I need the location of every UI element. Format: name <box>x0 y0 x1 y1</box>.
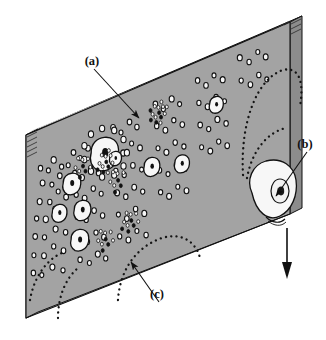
nucleation-dot <box>130 219 133 223</box>
nucleation-dot <box>135 212 138 216</box>
satellite-bubble <box>121 136 126 143</box>
nucleation-dot <box>112 239 115 243</box>
small-bubble <box>31 270 35 276</box>
nucleation-dot <box>105 160 108 164</box>
small-bubble <box>167 193 172 199</box>
small-bubble <box>156 146 160 151</box>
small-bubble <box>119 130 123 135</box>
small-bubble <box>118 234 122 239</box>
small-bubble <box>32 253 36 258</box>
small-bubble <box>182 144 186 149</box>
small-bubble <box>91 186 95 192</box>
small-bubble <box>131 163 136 169</box>
nucleation-dot <box>109 154 112 158</box>
nucleation-dot <box>159 121 162 125</box>
small-bubble <box>237 55 242 61</box>
satellite-bubble <box>100 125 105 132</box>
nucleation-dot <box>82 164 85 168</box>
small-bubble <box>197 100 201 105</box>
small-bubble <box>99 191 103 196</box>
small-bubble <box>124 194 128 200</box>
small-bubble <box>198 122 203 128</box>
small-bubble <box>42 235 46 240</box>
small-bubble <box>217 139 221 144</box>
small-bubble <box>66 163 70 168</box>
nucleation-dot <box>97 239 100 243</box>
small-bubble <box>180 122 185 128</box>
small-bubble <box>212 73 216 78</box>
nucleation-dot <box>84 169 87 173</box>
bubble-nucleus <box>58 210 61 215</box>
small-bubble <box>94 230 98 235</box>
nucleation-dot <box>160 100 163 104</box>
small-bubble <box>51 157 56 164</box>
small-bubble <box>42 253 47 259</box>
nucleation-dot <box>154 115 157 119</box>
nucleation-dot <box>132 224 135 228</box>
small-bubble <box>200 145 204 150</box>
small-bubble <box>43 216 48 223</box>
nucleate-boiling-plate-diagram: (a)(b)(c) <box>0 0 326 340</box>
small-bubble <box>126 237 131 243</box>
small-bubble <box>48 199 52 205</box>
small-bubble <box>35 216 39 221</box>
small-bubble <box>176 184 180 189</box>
small-bubble <box>142 210 147 216</box>
nucleation-dot <box>151 112 154 116</box>
small-bubble <box>133 206 137 212</box>
small-bubble <box>140 167 144 172</box>
nucleation-dot <box>122 171 125 175</box>
nucleation-dot <box>78 176 81 180</box>
bubble-nucleus <box>70 180 74 186</box>
label-c: (c) <box>150 287 164 301</box>
small-bubble <box>52 244 56 249</box>
nucleation-dot <box>78 169 81 173</box>
nucleation-dot <box>101 249 104 253</box>
small-bubble <box>46 168 50 173</box>
small-bubble <box>184 188 189 194</box>
nucleation-dot <box>81 158 84 162</box>
small-bubble <box>40 273 44 278</box>
nucleation-dot <box>74 166 77 170</box>
nucleation-dot <box>104 154 107 158</box>
label-a: (a) <box>85 54 100 68</box>
figure-container: (a)(b)(c) <box>0 0 326 340</box>
small-bubble <box>208 148 213 154</box>
nucleation-dot <box>114 190 117 194</box>
nucleation-dot <box>125 211 128 215</box>
small-bubble <box>78 257 82 263</box>
small-bubble <box>63 230 67 236</box>
nucleation-dot <box>96 168 99 172</box>
nucleation-dot <box>129 213 132 217</box>
small-bubble <box>195 78 199 84</box>
satellite-bubble <box>82 143 87 150</box>
small-bubble <box>169 96 174 102</box>
small-bubble <box>164 149 169 155</box>
small-bubble <box>37 199 42 205</box>
small-bubble <box>38 165 42 171</box>
nucleation-dot <box>113 184 116 188</box>
nucleation-dot <box>127 230 130 234</box>
nucleation-dot <box>98 162 101 166</box>
nucleation-dot <box>123 220 126 224</box>
small-bubble <box>50 264 55 270</box>
small-bubble <box>144 232 148 238</box>
nucleation-dot <box>157 106 160 110</box>
nucleation-dot <box>158 111 161 115</box>
satellite-bubble <box>88 131 93 138</box>
small-bubble <box>239 78 243 83</box>
departing-bubble-nucleus <box>278 187 284 196</box>
small-bubble <box>224 121 228 127</box>
satellite-bubble <box>124 149 129 156</box>
small-bubble <box>172 118 176 123</box>
nucleation-dot <box>107 149 110 153</box>
nucleation-dot <box>106 171 109 175</box>
nucleation-dot <box>104 231 107 235</box>
nucleation-dot <box>100 242 103 246</box>
small-bubble <box>60 164 64 169</box>
satellite-bubble <box>121 163 126 170</box>
small-bubble <box>141 189 145 194</box>
small-bubble <box>166 172 170 177</box>
small-bubble <box>132 184 137 190</box>
nucleation-dot <box>99 229 102 233</box>
